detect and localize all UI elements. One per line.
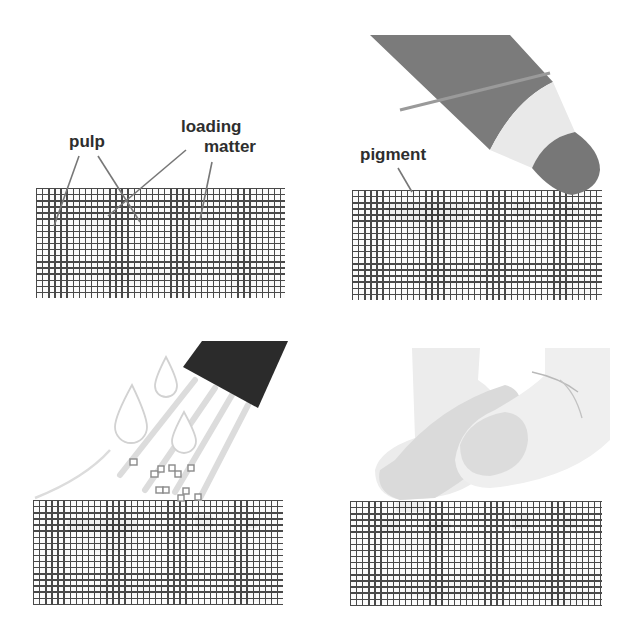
particle xyxy=(163,487,169,493)
label-pigment: pigment xyxy=(360,145,426,164)
particle xyxy=(151,471,158,477)
leader-lines xyxy=(0,0,320,320)
leader-line xyxy=(398,168,412,192)
panel-water-spray xyxy=(0,320,320,640)
panel-pigment-application: pigment xyxy=(320,0,635,320)
particle xyxy=(195,494,201,500)
panel-finger-rubbing xyxy=(320,320,635,640)
particle xyxy=(169,465,175,471)
particle xyxy=(183,488,189,494)
particle xyxy=(175,471,181,477)
particle xyxy=(188,465,194,471)
water-droplet xyxy=(155,357,177,397)
particle xyxy=(178,495,184,501)
finger-illustration xyxy=(320,320,635,640)
water-droplet xyxy=(115,385,147,443)
particle xyxy=(130,459,137,465)
particle xyxy=(156,487,163,493)
nozzle xyxy=(183,341,288,408)
particle xyxy=(158,466,164,472)
panel-pulp-loading-matter: pulp loading matter xyxy=(0,0,320,320)
water-spray-illustration xyxy=(0,320,320,640)
